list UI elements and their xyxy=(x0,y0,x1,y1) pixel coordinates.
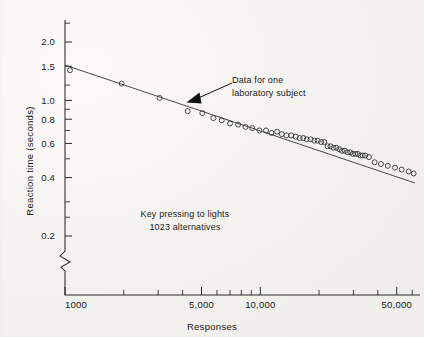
data-point xyxy=(328,144,333,149)
data-point xyxy=(372,160,377,165)
data-point xyxy=(411,171,416,176)
data-point xyxy=(385,163,390,168)
callout-arrow xyxy=(187,83,233,104)
y-tick-label: 0.8 xyxy=(41,114,55,125)
tick-labels-layer: 2.01.51.00.80.60.40.210005,00010,00050,0… xyxy=(41,36,412,310)
data-point xyxy=(393,165,398,170)
callout-text-line-1: Data for one xyxy=(232,74,306,87)
data-point xyxy=(236,122,241,127)
callout-text-line-2: laboratory subject xyxy=(232,87,306,100)
data-point xyxy=(399,167,404,172)
data-point xyxy=(264,128,269,133)
data-point xyxy=(275,129,280,134)
x-axis-title: Responses xyxy=(187,321,237,332)
data-point xyxy=(228,121,233,126)
figure-panel: 2.01.51.00.80.60.40.210005,00010,00050,0… xyxy=(0,0,424,337)
reaction-time-chart: 2.01.51.00.80.60.40.210005,00010,00050,0… xyxy=(0,0,424,337)
y-tick-label: 1.5 xyxy=(41,61,55,72)
y-tick-label: 0.6 xyxy=(41,138,55,149)
major-ticks-layer xyxy=(65,42,397,295)
data-point xyxy=(219,118,224,123)
data-point xyxy=(211,116,216,121)
caption-text-line-1: Key pressing to lights xyxy=(115,208,255,221)
x-tick-label: 50,000 xyxy=(382,299,412,310)
y-tick-label: 0.2 xyxy=(41,230,55,241)
y-axis-title: Reaction time (seconds) xyxy=(24,106,35,215)
data-point xyxy=(67,68,72,73)
data-point xyxy=(378,162,383,167)
x-tick-label: 10,000 xyxy=(245,299,275,310)
data-point xyxy=(185,109,190,114)
y-tick-label: 2.0 xyxy=(41,36,55,47)
data-point xyxy=(284,133,289,138)
y-tick-label: 0.4 xyxy=(41,172,55,183)
x-tick-label: 5,000 xyxy=(189,299,214,310)
y-tick-label: 1.0 xyxy=(41,95,55,106)
x-tick-label: 1000 xyxy=(65,299,87,310)
data-point xyxy=(406,169,411,174)
caption-text-line-2: 1023 alternatives xyxy=(115,221,255,234)
minor-ticks-layer xyxy=(65,23,412,295)
